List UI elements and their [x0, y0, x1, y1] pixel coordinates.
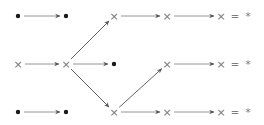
point-node-t1 [64, 14, 68, 18]
commutative-diagram: ×××=*××××=*×××=* [0, 0, 264, 125]
arrow-m1-to-t2 [71, 21, 109, 59]
point-node-b0 [16, 110, 20, 114]
point-node-b1 [64, 110, 68, 114]
equals-sign-t4: = [231, 11, 239, 22]
terminal-star-m4: * [246, 59, 251, 70]
point-node-m2 [112, 62, 116, 66]
edges-layer [24, 16, 214, 112]
object-node-m0: × [13, 58, 22, 71]
terminal-star-b4: * [246, 107, 251, 118]
equals-sign-b4: = [231, 107, 239, 118]
object-node-m1: × [61, 58, 70, 71]
object-node-t3: × [162, 10, 171, 23]
point-node-t0 [16, 14, 20, 18]
equals-sign-m4: = [231, 59, 239, 70]
arrow-m1-to-b2 [71, 69, 109, 107]
arrow-b2-to-m3 [119, 69, 162, 108]
terminal-star-t4: * [246, 11, 251, 22]
object-node-m3: × [162, 58, 171, 71]
object-node-b3: × [162, 106, 171, 119]
object-node-t2: × [109, 10, 118, 23]
object-node-b4: × [216, 106, 225, 119]
nodes-layer: ×××=*××××=*×××=* [13, 10, 250, 119]
object-node-b2: × [109, 106, 118, 119]
object-node-m4: × [216, 58, 225, 71]
object-node-t4: × [216, 10, 225, 23]
